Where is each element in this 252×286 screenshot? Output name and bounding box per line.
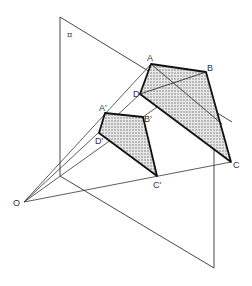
label-plane-pi: π xyxy=(67,30,72,39)
quad-abcd xyxy=(140,64,231,162)
label-a: A xyxy=(147,53,153,63)
label-b-prime: B' xyxy=(144,114,152,124)
label-c-prime: C' xyxy=(153,180,161,190)
label-a-prime: A' xyxy=(99,103,107,113)
label-d: D xyxy=(133,89,140,99)
label-d-prime: D' xyxy=(95,136,103,146)
projection-diagram: π O A B C D A' B' C' D' xyxy=(0,0,252,286)
label-b: B xyxy=(207,63,213,73)
label-o: O xyxy=(13,198,20,208)
label-c: C xyxy=(233,160,240,170)
